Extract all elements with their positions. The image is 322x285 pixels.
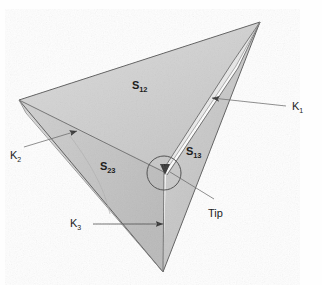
surface-label-s12-sub: 12 <box>139 85 147 94</box>
vector-label-k2: K2 <box>10 150 21 163</box>
figure-canvas <box>0 0 322 285</box>
vector-label-k3-sub: 3 <box>77 224 81 231</box>
vector-label-k1-sub: 1 <box>299 107 303 114</box>
crack-tip-figure: S12 S23 S13 K1 K2 K3 Tip <box>0 0 322 285</box>
surface-label-s23: S23 <box>100 161 115 175</box>
vector-label-k1: K1 <box>292 101 303 114</box>
surface-label-s12: S12 <box>132 80 147 94</box>
surface-label-s13: S13 <box>186 146 201 160</box>
surface-label-s13-sub: 13 <box>193 151 201 160</box>
vector-label-k3: K3 <box>70 218 81 231</box>
vector-label-k2-sub: 2 <box>17 156 21 163</box>
tip-label: Tip <box>208 208 223 219</box>
surface-label-s23-sub: 23 <box>107 166 115 175</box>
